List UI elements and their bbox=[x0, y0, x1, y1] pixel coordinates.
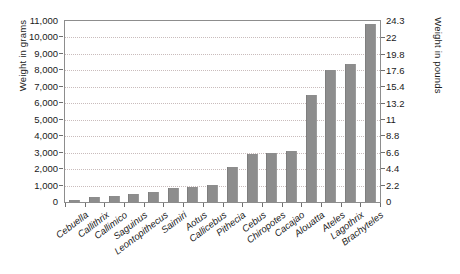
bar bbox=[69, 200, 80, 202]
y-axis-right-tick-label: 13.2 bbox=[386, 99, 432, 109]
y-axis-left-tick-mark bbox=[59, 36, 63, 37]
y-axis-left-tick-label: 9,000 bbox=[12, 49, 58, 59]
y-axis-left-tick-mark bbox=[59, 119, 63, 120]
y-axis-right-tick-mark bbox=[381, 119, 385, 120]
bar bbox=[89, 197, 100, 202]
x-axis-labels: CebuellaCallithrixCallimicoSaguinusLeont… bbox=[0, 207, 460, 274]
y-axis-left-tick-label: 3,000 bbox=[12, 148, 58, 158]
y-axis-right-tick-label: 8.8 bbox=[386, 131, 432, 141]
y-axis-left-tick-label: 0 bbox=[12, 197, 58, 207]
y-axis-left-tick-label: 11,000 bbox=[12, 16, 58, 26]
y-axis-left-tick-label: 8,000 bbox=[12, 65, 58, 75]
y-axis-left-tick-label: 5,000 bbox=[12, 115, 58, 125]
y-axis-left-tick-mark bbox=[59, 168, 63, 169]
y-axis-left-tick-mark bbox=[59, 102, 63, 103]
y-axis-right-ticks: 02.24.46.68.81113.215.417.619.82224.3 bbox=[386, 20, 432, 203]
bar bbox=[325, 70, 336, 202]
y-axis-right-tick-label: 24.3 bbox=[386, 16, 432, 26]
y-axis-left-tick-label: 2,000 bbox=[12, 164, 58, 174]
y-axis-left-tick-label: 4,000 bbox=[12, 131, 58, 141]
y-axis-right-tick-mark bbox=[381, 103, 385, 104]
bar bbox=[148, 192, 159, 202]
y-axis-right-tick-mark bbox=[381, 70, 385, 71]
bar bbox=[345, 64, 356, 202]
y-axis-left-tick-mark bbox=[59, 152, 63, 153]
y-axis-right-tick-label: 15.4 bbox=[386, 82, 432, 92]
bar bbox=[207, 185, 218, 202]
y-axis-right-tick-label: 6.6 bbox=[386, 148, 432, 158]
bar bbox=[187, 187, 198, 202]
y-axis-left-tick-mark bbox=[59, 185, 63, 186]
bar bbox=[227, 167, 238, 202]
y-axis-left-tick-label: 7,000 bbox=[12, 82, 58, 92]
bar bbox=[365, 24, 376, 202]
y-axis-right-tick-mark bbox=[381, 152, 385, 153]
y-axis-right-tick-label: 2.2 bbox=[386, 181, 432, 191]
y-axis-left-tick-mark bbox=[59, 69, 63, 70]
y-axis-right-tick-label: 19.8 bbox=[386, 50, 432, 60]
bar bbox=[286, 151, 297, 202]
y-axis-right-title: Weight in pounds bbox=[433, 0, 444, 116]
bar bbox=[168, 188, 179, 202]
y-axis-left-tick-mark bbox=[59, 135, 63, 136]
y-axis-right-tick-mark bbox=[381, 37, 385, 38]
y-axis-left-tick-label: 6,000 bbox=[12, 98, 58, 108]
bar bbox=[266, 153, 277, 202]
y-axis-right-tick-mark bbox=[381, 168, 385, 169]
bars-group bbox=[65, 21, 380, 202]
y-axis-right-tick-mark bbox=[381, 135, 385, 136]
y-axis-left-tick-label: 10,000 bbox=[12, 32, 58, 42]
y-axis-left-ticks: 01,0002,0003,0004,0005,0006,0007,0008,00… bbox=[12, 20, 58, 203]
y-axis-right-tick-label: 17.6 bbox=[386, 66, 432, 76]
y-axis-left-tick-mark bbox=[59, 86, 63, 87]
bar-chart-figure: Weight in grams Weight in pounds 01,0002… bbox=[0, 0, 460, 274]
bar bbox=[109, 196, 120, 202]
y-axis-right-tick-mark bbox=[381, 54, 385, 55]
bar bbox=[128, 194, 139, 202]
y-axis-right-tick-label: 22 bbox=[386, 33, 432, 43]
y-axis-left-tick-mark bbox=[59, 53, 63, 54]
y-axis-right-tick-label: 0 bbox=[386, 197, 432, 207]
y-axis-right-tick-mark bbox=[381, 185, 385, 186]
y-axis-right-tick-mark bbox=[381, 86, 385, 87]
y-axis-right-tick-label: 4.4 bbox=[386, 164, 432, 174]
bar bbox=[247, 154, 258, 202]
y-axis-left-tick-label: 1,000 bbox=[12, 181, 58, 191]
bar bbox=[306, 95, 317, 202]
y-axis-right-tick-label: 11 bbox=[386, 115, 432, 125]
